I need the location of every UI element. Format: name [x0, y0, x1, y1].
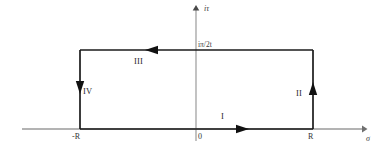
axes-group: [22, 5, 368, 141]
horizontal-axis-arrowhead: [362, 126, 368, 133]
segment-label-IV: IV: [83, 87, 92, 96]
figure-canvas: [0, 0, 386, 158]
tick-label-R: R: [308, 133, 313, 141]
arrowhead-segment-III: [145, 46, 158, 54]
tick-label-minus-R: -R: [72, 133, 80, 141]
vertical-axis-label: iτ: [204, 5, 209, 13]
vertical-axis-arrowhead: [193, 5, 200, 11]
arrowhead-segment-II: [309, 82, 317, 95]
segment-label-II: II: [296, 89, 302, 98]
segment-label-I: I: [221, 112, 224, 121]
tick-label-i-pi-over-2t: iπ/2t: [198, 41, 212, 49]
horizontal-axis-label: σ: [366, 135, 370, 143]
contour-figure: iτ σ -R 0 R iπ/2t I II III IV: [0, 0, 386, 158]
segment-label-III: III: [134, 57, 143, 66]
arrowhead-segment-I: [236, 125, 249, 133]
tick-label-origin: 0: [198, 133, 202, 141]
